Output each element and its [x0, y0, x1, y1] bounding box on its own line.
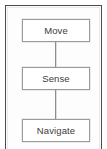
flow-node-move[interactable]: Move: [22, 19, 90, 42]
flow-connector-sense-to-navigate: [55, 90, 56, 119]
flow-node-label: Sense: [42, 74, 69, 84]
flow-node-navigate[interactable]: Navigate: [22, 119, 90, 142]
flow-node-sense[interactable]: Sense: [22, 67, 90, 90]
flow-connector-move-to-sense: [55, 42, 56, 67]
flow-node-label: Move: [44, 26, 68, 36]
flow-node-label: Navigate: [37, 126, 75, 136]
flowchart: Move Sense Navigate: [0, 0, 107, 149]
figure-screenshot: Move Sense Navigate: [0, 0, 107, 149]
